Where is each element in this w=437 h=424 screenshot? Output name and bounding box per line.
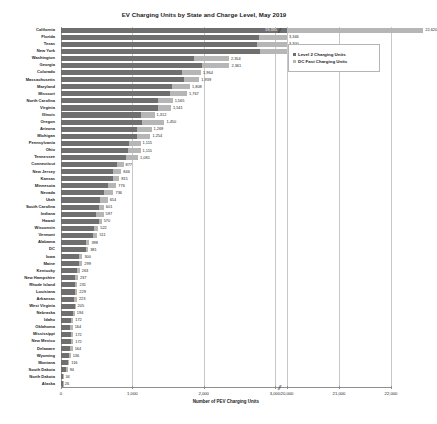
stacked-bar[interactable] (61, 105, 171, 110)
stacked-bar[interactable] (61, 190, 113, 195)
stacked-bar[interactable] (61, 261, 82, 266)
stacked-bar[interactable] (61, 297, 77, 302)
bar-segment-dcfast[interactable] (158, 98, 173, 103)
bar-segment-dcfast[interactable] (75, 304, 76, 309)
bar-segment-dcfast[interactable] (126, 155, 139, 160)
bar-segment-dcfast[interactable] (259, 35, 287, 40)
bar-segment-level2[interactable] (61, 120, 142, 125)
stacked-bar[interactable] (61, 49, 287, 54)
bar-segment-dcfast[interactable] (75, 275, 77, 280)
bar-segment-dcfast[interactable] (128, 148, 141, 153)
bar-segment-dcfast[interactable] (94, 226, 98, 231)
bar-segment-level2[interactable] (61, 35, 259, 40)
stacked-bar[interactable] (61, 28, 423, 33)
bar-segment-dcfast[interactable] (99, 205, 103, 210)
stacked-bar[interactable] (61, 148, 141, 153)
bar-segment-level2[interactable] (61, 304, 75, 309)
bar-segment-level2[interactable] (61, 28, 287, 33)
stacked-bar[interactable] (61, 169, 121, 174)
bar-segment-level2[interactable] (61, 190, 104, 195)
bar-segment-level2[interactable] (61, 212, 96, 217)
stacked-bar[interactable] (61, 353, 71, 358)
bar-segment-dcfast[interactable] (129, 141, 140, 146)
bar-segment-level2[interactable] (61, 240, 86, 245)
bar-segment-dcfast[interactable] (70, 325, 73, 330)
bar-segment-level2[interactable] (61, 233, 93, 238)
stacked-bar[interactable] (61, 120, 164, 125)
stacked-bar[interactable] (61, 318, 73, 323)
bar-segment-dcfast[interactable] (70, 346, 72, 351)
bar-segment-level2[interactable] (61, 112, 141, 117)
bar-segment-dcfast[interactable] (71, 339, 73, 344)
bar-segment-level2[interactable] (61, 155, 126, 160)
stacked-bar[interactable] (61, 91, 187, 96)
stacked-bar[interactable] (61, 233, 97, 238)
bar-segment-dcfast[interactable] (172, 84, 190, 89)
stacked-bar[interactable] (61, 275, 78, 280)
bar-segment-dcfast[interactable] (184, 77, 200, 82)
stacked-bar[interactable] (61, 219, 102, 224)
bar-segment-level2[interactable] (61, 268, 77, 273)
stacked-bar[interactable] (61, 176, 119, 181)
stacked-bar[interactable] (61, 141, 141, 146)
bar-segment-dcfast[interactable] (75, 289, 78, 294)
bar-segment-level2[interactable] (61, 325, 70, 330)
bar-segment-level2[interactable] (61, 311, 73, 316)
bar-segment-dcfast[interactable] (104, 190, 114, 195)
stacked-bar[interactable] (61, 35, 287, 40)
bar-segment-level2[interactable] (61, 360, 68, 365)
bar-segment-level2[interactable] (61, 332, 71, 337)
bar-segment-dcfast[interactable] (99, 219, 101, 224)
bar-segment-dcfast[interactable] (158, 105, 171, 110)
bar-segment-level2[interactable] (61, 275, 75, 280)
bar-segment-dcfast[interactable] (96, 212, 104, 217)
bar-segment-level2[interactable] (61, 63, 202, 68)
stacked-bar[interactable] (61, 56, 229, 61)
bar-segment-dcfast[interactable] (86, 240, 90, 245)
stacked-bar[interactable] (61, 254, 82, 259)
bar-segment-dcfast[interactable] (202, 63, 230, 68)
bar-segment-dcfast[interactable] (79, 254, 82, 259)
stacked-bar[interactable] (61, 304, 76, 309)
bar-segment-dcfast[interactable] (86, 247, 89, 252)
stacked-bar[interactable] (61, 346, 73, 351)
stacked-bar[interactable] (61, 367, 68, 372)
stacked-bar[interactable] (61, 155, 138, 160)
stacked-bar[interactable] (61, 282, 77, 287)
stacked-bar[interactable] (61, 240, 89, 245)
stacked-bar[interactable] (61, 112, 155, 117)
bar-segment-level2[interactable] (61, 70, 182, 75)
bar-segment-dcfast[interactable] (73, 311, 75, 316)
bar-segment-level2[interactable] (61, 261, 79, 266)
bar-segment-level2[interactable] (61, 162, 117, 167)
bar-segment-level2[interactable] (61, 339, 71, 344)
stacked-bar[interactable] (61, 127, 152, 132)
bar-segment-level2[interactable] (61, 42, 257, 47)
bar-segment-dcfast[interactable] (74, 297, 77, 302)
stacked-bar[interactable] (61, 84, 190, 89)
bar-segment-level2[interactable] (61, 318, 71, 323)
stacked-bar[interactable] (61, 162, 124, 167)
bar-segment-level2[interactable] (61, 141, 129, 146)
bar-segment-level2[interactable] (61, 289, 75, 294)
bar-segment-level2[interactable] (61, 91, 170, 96)
bar-segment-level2[interactable] (61, 282, 75, 287)
stacked-bar[interactable] (61, 70, 201, 75)
stacked-bar[interactable] (61, 289, 77, 294)
stacked-bar[interactable] (61, 226, 98, 231)
bar-segment-dcfast[interactable] (113, 176, 119, 181)
bar-segment-level2[interactable] (61, 127, 137, 132)
bar-segment-level2[interactable] (61, 353, 69, 358)
bar-segment-level2[interactable] (61, 205, 99, 210)
bar-segment-level2[interactable] (61, 134, 137, 139)
bar-segment-level2[interactable] (61, 297, 74, 302)
bar-segment-dcfast[interactable] (108, 183, 117, 188)
bar-segment-dcfast[interactable] (77, 268, 80, 273)
stacked-bar[interactable] (61, 134, 150, 139)
bar-segment-dcfast[interactable] (71, 332, 73, 337)
bar-segment-level2[interactable] (61, 176, 113, 181)
stacked-bar[interactable] (61, 77, 199, 82)
stacked-bar[interactable] (61, 197, 108, 202)
bar-segment-dcfast[interactable] (257, 42, 287, 47)
bar-segment-dcfast[interactable] (137, 134, 151, 139)
